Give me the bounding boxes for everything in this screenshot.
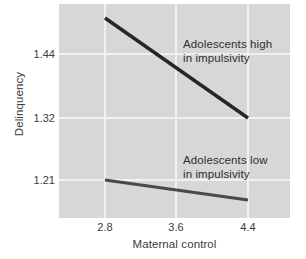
annotation-low-impulsivity: Adolescents low in impulsivity [183, 153, 268, 181]
x-tick-label-3-6: 3.6 [168, 221, 183, 233]
x-tick-label-2-8: 2.8 [97, 221, 112, 233]
x-tick-label-4-4: 4.4 [240, 221, 255, 233]
y-axis-tick-labels: 1.44 1.32 1.21 [10, 0, 55, 259]
annotation-low-line1: Adolescents low [183, 154, 268, 166]
x-axis-title: Maternal control [59, 238, 290, 250]
y-tick-label-1-21: 1.21 [11, 174, 55, 186]
annotation-high-impulsivity: Adolescents high in impulsivity [183, 37, 272, 65]
y-tick-label-1-44: 1.44 [11, 48, 55, 60]
delinquency-maternal-control-chart: Delinquency 1.44 1.32 1.21 Adolescents h… [0, 0, 306, 259]
series-line-high-impulsivity [105, 18, 248, 118]
annotation-high-line2: in impulsivity [183, 52, 250, 64]
y-tick-label-1-32: 1.32 [11, 112, 55, 124]
annotation-low-line2: in impulsivity [183, 168, 250, 180]
plot-area: Adolescents high in impulsivity Adolesce… [59, 4, 290, 218]
annotation-high-line1: Adolescents high [183, 38, 272, 50]
series-line-low-impulsivity [105, 180, 248, 200]
